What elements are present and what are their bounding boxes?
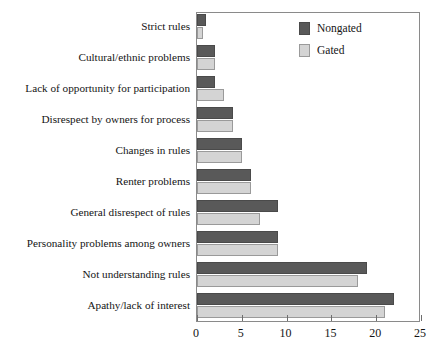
bar-gated xyxy=(197,275,358,287)
bar-nongated xyxy=(197,293,394,305)
category-label: Cultural/ethnic problems xyxy=(0,51,190,63)
category-label: Renter problems xyxy=(0,175,190,187)
bar-nongated xyxy=(197,76,215,88)
chart-legend: NongatedGated xyxy=(299,19,409,63)
bar-chart-figure: Strict rulesCultural/ethnic problemsLack… xyxy=(0,0,438,357)
category-label: Changes in rules xyxy=(0,144,190,156)
legend-item-nongated: Nongated xyxy=(299,19,409,37)
legend-swatch-nongated xyxy=(299,22,310,35)
category-axis-labels: Strict rulesCultural/ethnic problemsLack… xyxy=(0,12,190,322)
bar-gated xyxy=(197,306,385,318)
legend-label: Nongated xyxy=(317,22,362,34)
category-label: Strict rules xyxy=(0,20,190,32)
bar-gated xyxy=(197,27,203,39)
x-axis-tick-label: 10 xyxy=(266,326,306,341)
bar-nongated xyxy=(197,14,206,26)
x-axis-tick-label: 25 xyxy=(400,326,438,341)
x-axis-tick-label: 15 xyxy=(310,326,350,341)
bar-nongated xyxy=(197,138,242,150)
bar-nongated xyxy=(197,107,233,119)
bar-gated xyxy=(197,182,251,194)
bar-gated xyxy=(197,58,215,70)
category-label: Apathy/lack of interest xyxy=(0,299,190,311)
x-axis-tick xyxy=(287,315,288,321)
bar-gated xyxy=(197,151,242,163)
bar-gated xyxy=(197,120,233,132)
bar-nongated xyxy=(197,200,278,212)
bar-nongated xyxy=(197,231,278,243)
bar-gated xyxy=(197,89,224,101)
x-axis-tick xyxy=(331,315,332,321)
x-axis-tick-label: 0 xyxy=(176,326,216,341)
x-axis-tick xyxy=(421,315,422,321)
x-axis-tick-label: 20 xyxy=(355,326,395,341)
legend-item-gated: Gated xyxy=(299,41,409,59)
bar-nongated xyxy=(197,262,367,274)
category-label: Personality problems among owners xyxy=(0,237,190,249)
category-label: Not understanding rules xyxy=(0,268,190,280)
x-axis-tick-label: 5 xyxy=(221,326,261,341)
category-label: General disrespect of rules xyxy=(0,206,190,218)
category-label: Lack of opportunity for participation xyxy=(0,82,190,94)
bar-gated xyxy=(197,244,278,256)
bar-nongated xyxy=(197,45,215,57)
x-axis-tick xyxy=(242,315,243,321)
bar-nongated xyxy=(197,169,251,181)
bar-gated xyxy=(197,213,260,225)
x-axis-tick xyxy=(376,315,377,321)
x-axis-tick xyxy=(197,315,198,321)
legend-swatch-gated xyxy=(299,44,310,57)
category-label: Disrespect by owners for process xyxy=(0,113,190,125)
legend-label: Gated xyxy=(317,44,344,56)
